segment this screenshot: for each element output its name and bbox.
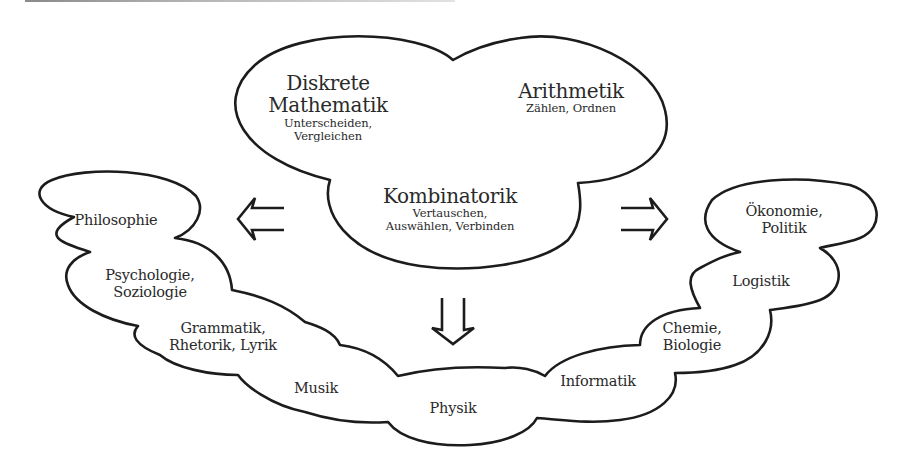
node-label-line: Psychologie,	[105, 267, 194, 284]
node-oekonomie-politik: Ökonomie, Politik	[745, 203, 822, 238]
node-physik: Physik	[430, 400, 477, 417]
node-chemie-biologie: Chemie, Biologie	[662, 320, 721, 355]
topic-arithmetik: Arithmetik Zählen, Ordnen	[518, 80, 624, 115]
double-arrow-left-icon	[238, 198, 284, 240]
node-label-line: Soziologie	[105, 284, 194, 301]
node-logistik: Logistik	[732, 273, 789, 290]
node-label-line: Grammatik,	[169, 320, 277, 337]
topic-subtitle-line: Auswählen, Verbinden	[383, 220, 517, 233]
topic-title-line: Kombinatorik	[383, 185, 517, 207]
node-philosophie: Philosophie	[75, 212, 158, 229]
topic-diskrete-mathematik: Diskrete Mathematik Unterscheiden, Vergl…	[268, 72, 388, 143]
node-label-line: Politik	[745, 220, 822, 237]
node-label-line: Rhetorik, Lyrik	[169, 337, 277, 354]
node-label-line: Philosophie	[75, 212, 158, 229]
node-label-line: Musik	[294, 380, 338, 397]
topic-title-line: Arithmetik	[518, 80, 624, 102]
topic-subtitle-line: Zählen, Ordnen	[518, 102, 624, 115]
node-grammatik-rhetorik-lyrik: Grammatik, Rhetorik, Lyrik	[169, 320, 277, 355]
topic-kombinatorik: Kombinatorik Vertauschen, Auswählen, Ver…	[383, 185, 517, 233]
double-arrow-right-icon	[621, 198, 667, 240]
topic-subtitle-line: Unterscheiden,	[268, 117, 388, 130]
node-label-line: Logistik	[732, 273, 789, 290]
node-musik: Musik	[294, 380, 338, 397]
node-label-line: Biologie	[662, 337, 721, 354]
topic-subtitle-line: Vergleichen	[268, 130, 388, 143]
topic-title-line: Mathematik	[268, 94, 388, 116]
node-label-line: Ökonomie,	[745, 203, 822, 220]
topic-title-line: Diskrete	[268, 72, 388, 94]
node-label-line: Chemie,	[662, 320, 721, 337]
node-psychologie-soziologie: Psychologie, Soziologie	[105, 267, 194, 302]
double-arrow-down-icon	[432, 298, 474, 344]
node-label-line: Informatik	[560, 373, 636, 390]
node-informatik: Informatik	[560, 373, 636, 390]
node-label-line: Physik	[430, 400, 477, 417]
